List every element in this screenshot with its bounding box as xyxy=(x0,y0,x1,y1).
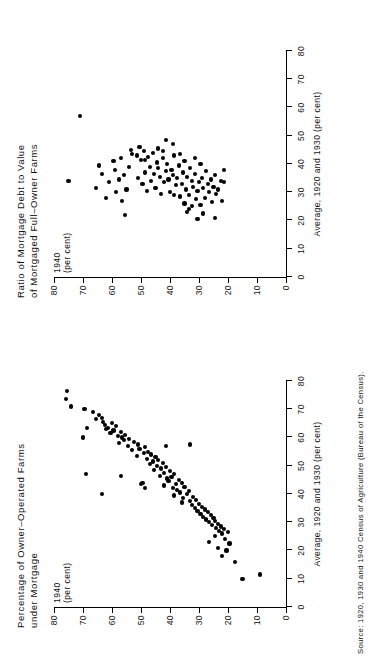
scatter-point xyxy=(69,404,73,408)
scatter-point xyxy=(162,483,166,487)
x-tick-label-right-10: 10 xyxy=(297,237,306,261)
x-tick-label-left-50: 50 xyxy=(297,454,306,478)
scatter-point xyxy=(194,197,198,201)
scatter-point xyxy=(122,438,126,442)
scatter-point xyxy=(226,530,230,534)
plot-area-left: 1940 (per cent) Average, 1920 and 1930 (… xyxy=(54,381,287,608)
scatter-point xyxy=(94,186,98,190)
scatter-point xyxy=(81,435,85,439)
y-tick-right-40 xyxy=(170,277,171,283)
scatter-point xyxy=(145,189,149,193)
scatter-point xyxy=(224,548,228,552)
scatter-point xyxy=(107,180,111,184)
scatter-point xyxy=(164,138,168,142)
scatter-point xyxy=(143,486,147,490)
figure-canvas: Percentage of Owner–Operated Farms under… xyxy=(0,0,372,672)
y-tick-left-20 xyxy=(228,607,229,613)
scatter-point xyxy=(220,199,224,203)
scatter-point xyxy=(164,444,168,448)
scatter-point xyxy=(64,397,68,401)
scatter-point xyxy=(187,193,191,197)
scatter-point xyxy=(143,445,147,449)
scatter-point xyxy=(198,162,202,166)
scatter-point xyxy=(111,159,115,163)
rotated-scan-frame: Percentage of Owner–Operated Farms under… xyxy=(0,0,372,672)
x-axis-label-right: Average, 1920 and 1930 (per cent) xyxy=(312,51,322,277)
scatter-point xyxy=(220,554,224,558)
x-tick-label-right-70: 70 xyxy=(297,67,306,91)
scatter-point xyxy=(216,546,220,550)
y-tick-label-right-20: 20 xyxy=(224,285,233,307)
y-tick-label-right-30: 30 xyxy=(195,285,204,307)
x-tick-label-left-0: 0 xyxy=(297,595,306,619)
x-tick-label-right-60: 60 xyxy=(297,96,306,120)
scatter-points-left xyxy=(54,381,286,607)
scatter-point xyxy=(164,465,168,469)
scatter-point xyxy=(233,560,237,564)
x-tick-label-right-0: 0 xyxy=(297,265,306,289)
scatter-point xyxy=(94,417,98,421)
scatter-point xyxy=(182,485,186,489)
x-tick-left-50 xyxy=(286,465,292,466)
x-tick-label-left-20: 20 xyxy=(297,539,306,563)
x-tick-right-50 xyxy=(286,135,292,136)
x-axis-label-left: Average, 1920 and 1930 (per cent) xyxy=(312,381,322,607)
scatter-point xyxy=(152,468,156,472)
scatter-point xyxy=(185,492,189,496)
scatter-point xyxy=(152,172,156,176)
scatter-point xyxy=(120,199,124,203)
y-tick-label-left-40: 40 xyxy=(166,615,175,637)
scatter-point xyxy=(185,210,189,214)
scatter-point xyxy=(158,175,162,179)
scatter-point xyxy=(227,541,231,545)
x-tick-right-80 xyxy=(286,50,292,51)
scatter-point xyxy=(184,187,188,191)
scatter-point xyxy=(156,146,160,150)
scatter-point xyxy=(171,142,175,146)
scatter-point xyxy=(175,176,179,180)
scatter-point xyxy=(258,572,262,576)
x-tick-label-left-10: 10 xyxy=(297,567,306,591)
scatter-point xyxy=(126,444,130,448)
scatter-point xyxy=(140,182,144,186)
scatter-point xyxy=(188,166,192,170)
y-tick-right-0 xyxy=(286,277,287,283)
y-tick-left-60 xyxy=(112,607,113,613)
scatter-point xyxy=(200,176,204,180)
scatter-point xyxy=(104,427,108,431)
scatter-point xyxy=(174,183,178,187)
scatter-point xyxy=(207,540,211,544)
y-tick-label-left-30: 30 xyxy=(195,615,204,637)
scatter-point xyxy=(222,180,226,184)
scatter-point xyxy=(84,472,88,476)
scatter-point xyxy=(104,196,108,200)
x-tick-left-80 xyxy=(286,380,292,381)
panel-percentage-owner-operated-farms: Percentage of Owner–Operated Farms under… xyxy=(14,356,344,654)
scatter-point xyxy=(178,194,182,198)
scatter-point xyxy=(159,192,163,196)
scatter-point xyxy=(114,190,118,194)
scatter-point xyxy=(185,175,189,179)
scatter-point xyxy=(181,170,185,174)
scatter-point xyxy=(220,531,224,535)
scatter-point xyxy=(222,168,226,172)
panel-title-left: Percentage of Owner–Operated Farms under… xyxy=(14,378,40,628)
y-tick-label-left-10: 10 xyxy=(253,615,262,637)
scatter-point xyxy=(137,145,141,149)
scatter-point xyxy=(204,169,208,173)
scatter-point xyxy=(213,173,217,177)
scatter-point xyxy=(166,479,170,483)
y-tick-label-left-0: 0 xyxy=(282,615,291,637)
scatter-points-right xyxy=(54,51,286,277)
y-tick-left-10 xyxy=(257,607,258,613)
scatter-point xyxy=(91,410,95,414)
y-tick-label-right-70: 70 xyxy=(79,285,88,307)
scatter-point xyxy=(135,454,139,458)
y-tick-right-10 xyxy=(257,277,258,283)
scatter-point xyxy=(203,196,207,200)
scatter-point xyxy=(143,158,147,162)
x-tick-left-0 xyxy=(286,606,292,607)
scatter-point xyxy=(193,156,197,160)
x-tick-left-30 xyxy=(286,521,292,522)
x-tick-label-left-60: 60 xyxy=(297,426,306,450)
